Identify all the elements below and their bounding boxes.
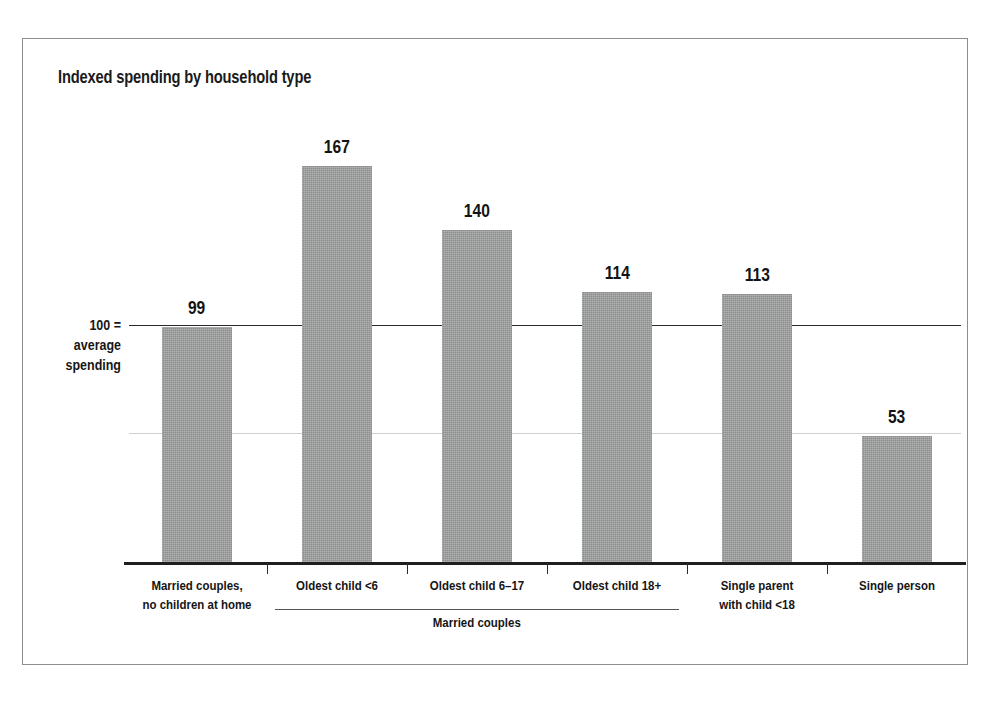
category-label: Married couples,no children at home bbox=[127, 576, 267, 614]
category-label: Oldest child 6–17 bbox=[407, 576, 547, 595]
group-label-married-couples: Married couples bbox=[275, 615, 679, 630]
category-label-line: Single parent bbox=[698, 576, 817, 595]
bar-value-label: 113 bbox=[687, 264, 827, 286]
reference-line-100 bbox=[129, 325, 961, 326]
reference-line-label-line-2: average bbox=[37, 335, 121, 355]
bar-value-text: 113 bbox=[744, 264, 769, 286]
category-label: Single person bbox=[827, 576, 967, 595]
bar bbox=[302, 166, 372, 562]
bar-value-label: 53 bbox=[827, 406, 967, 428]
plot-area: 100 = average spending 9916714011411353 … bbox=[23, 39, 967, 664]
category-label-line: with child <18 bbox=[698, 595, 817, 614]
bar bbox=[722, 294, 792, 562]
bar-value-text: 140 bbox=[464, 200, 490, 222]
axis-tick bbox=[827, 563, 828, 574]
group-bracket-rule bbox=[275, 609, 679, 610]
axis-tick bbox=[547, 563, 548, 574]
bar-value-text: 114 bbox=[604, 262, 629, 284]
category-label: Single parentwith child <18 bbox=[687, 576, 827, 614]
category-label-line: Married couples, bbox=[138, 576, 257, 595]
category-label-line: Oldest child 6–17 bbox=[418, 576, 537, 595]
bar-value-text: 53 bbox=[888, 406, 905, 428]
x-axis-baseline bbox=[124, 562, 966, 565]
axis-tick bbox=[407, 563, 408, 574]
bar bbox=[582, 292, 652, 562]
bar-value-text: 167 bbox=[324, 136, 350, 158]
bar-value-label: 140 bbox=[407, 200, 547, 222]
reference-line-label-line-3: spending bbox=[37, 355, 121, 375]
category-label: Oldest child <6 bbox=[267, 576, 407, 595]
category-label-line: Oldest child <6 bbox=[278, 576, 397, 595]
bar-value-text: 99 bbox=[188, 297, 205, 319]
axis-tick bbox=[687, 563, 688, 574]
bar bbox=[162, 327, 232, 562]
bar-value-label: 167 bbox=[267, 136, 407, 158]
figure-frame: Indexed spending by household type 100 =… bbox=[22, 38, 968, 665]
bar bbox=[862, 436, 932, 562]
chart-page: Indexed spending by household type 100 =… bbox=[0, 0, 1001, 710]
axis-tick bbox=[267, 563, 268, 574]
bar-value-label: 99 bbox=[127, 297, 267, 319]
reference-line-label-line-1: 100 = bbox=[37, 315, 121, 335]
category-label-line: no children at home bbox=[138, 595, 257, 614]
category-label-line: Oldest child 18+ bbox=[558, 576, 677, 595]
category-label-line: Single person bbox=[838, 576, 957, 595]
category-label: Oldest child 18+ bbox=[547, 576, 687, 595]
reference-line-label: 100 = average spending bbox=[23, 315, 121, 375]
bar-value-label: 114 bbox=[547, 262, 687, 284]
faint-gridline bbox=[129, 433, 961, 434]
bar bbox=[442, 230, 512, 562]
group-label-text: Married couples bbox=[433, 615, 521, 630]
